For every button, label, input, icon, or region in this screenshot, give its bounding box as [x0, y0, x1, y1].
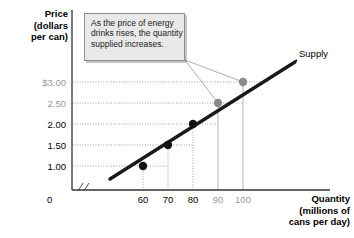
- gridlines-horizontal: [72, 82, 268, 166]
- data-point-60: [139, 162, 147, 170]
- x-tick-label-90: 90: [206, 194, 230, 205]
- x-tick-label-70: 70: [156, 194, 180, 205]
- supply-curve-figure: Price (dollars per can) Quantity (millio…: [0, 0, 354, 238]
- x-axis-title-line-1: Quantity: [252, 193, 350, 205]
- x-tick-label-80: 80: [181, 194, 205, 205]
- data-point-70: [164, 141, 172, 149]
- x-axis-title-line-3: cans per day): [252, 216, 350, 228]
- gridlines-vertical: [143, 82, 243, 190]
- data-point-90: [214, 99, 222, 107]
- y-axis-title: Price (dollars per can): [10, 8, 68, 43]
- supply-label-leader: [281, 60, 297, 71]
- x-axis-title: Quantity (millions of cans per day): [252, 193, 350, 228]
- origin-label: 0: [47, 194, 52, 205]
- y-tick-label-1-50: 1.50: [20, 140, 66, 151]
- data-points: [139, 78, 247, 170]
- supply-curve-label: Supply: [299, 48, 328, 59]
- data-point-80: [189, 120, 197, 128]
- x-tick-label-60: 60: [131, 194, 155, 205]
- y-tick-label-2-00: 2.00: [20, 119, 66, 130]
- y-axis-title-line-3: per can): [10, 31, 68, 43]
- annotation-callout-text: As the price of energy drinks rises, the…: [91, 18, 183, 49]
- y-axis-title-line-2: (dollars: [10, 20, 68, 32]
- y-axis-title-line-1: Price: [10, 8, 68, 20]
- data-point-100: [239, 78, 247, 86]
- supply-curve-line: [110, 62, 295, 179]
- x-axis-title-line-2: (millions of: [252, 205, 350, 217]
- y-tick-label-1-00: 1.00: [20, 161, 66, 172]
- annotation-callout-box: As the price of energy drinks rises, the…: [84, 13, 185, 61]
- y-tick-label-3-00: $3.00: [20, 77, 66, 88]
- y-tick-label-2-50: 2.50: [20, 98, 66, 109]
- x-tick-label-100: 100: [231, 194, 255, 205]
- callout-leader-lines: [185, 60, 243, 103]
